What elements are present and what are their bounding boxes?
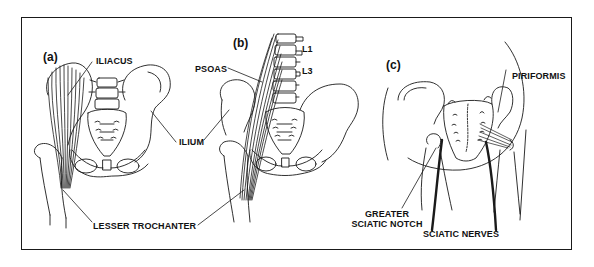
l3-label: L3 bbox=[302, 66, 313, 76]
piriformis-label: PIRIFORMIS bbox=[512, 71, 566, 81]
panel-c-label: (c) bbox=[386, 58, 401, 72]
anatomy-figure: (a) (b) (c) ILIACUS ILIUM PSOAS L1 L3 LE… bbox=[0, 0, 594, 267]
psoas-label: PSOAS bbox=[195, 64, 227, 74]
sciatic-nerves-label: SCIATIC NERVES bbox=[423, 229, 499, 239]
l1-label: L1 bbox=[302, 44, 313, 54]
ilium-label: ILIUM bbox=[179, 137, 204, 147]
pelvis-illustration bbox=[0, 0, 594, 267]
lesser-trochanter-label: LESSER TROCHANTER bbox=[93, 221, 196, 231]
panel-b-pelvis-drawing bbox=[198, 34, 358, 225]
panel-c-pelvis-drawing bbox=[383, 42, 526, 230]
greater-sciatic-notch-line2: SCIATIC NOTCH bbox=[342, 219, 432, 229]
panel-b-label: (b) bbox=[233, 36, 248, 50]
greater-sciatic-notch-label: GREATER SCIATIC NOTCH bbox=[342, 209, 432, 229]
iliacus-label: ILIACUS bbox=[96, 56, 133, 66]
greater-sciatic-notch-line1: GREATER bbox=[342, 209, 432, 219]
panel-a-pelvis-drawing bbox=[34, 62, 176, 228]
panel-a-label: (a) bbox=[43, 50, 58, 64]
